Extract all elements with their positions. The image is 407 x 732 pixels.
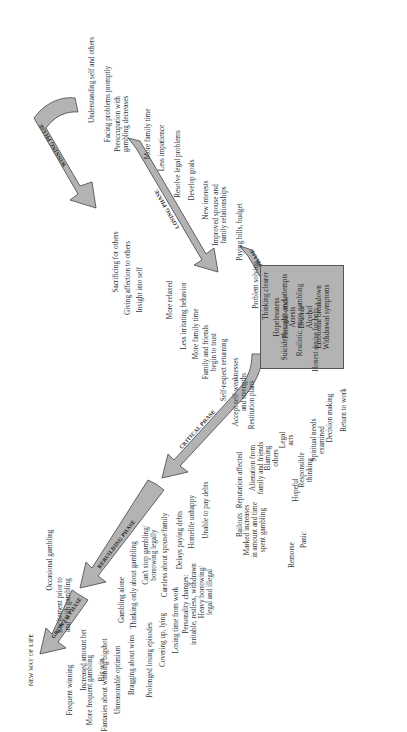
winning-phase-below-label: Unreasonable optimism bbox=[114, 646, 122, 714]
desperation-phase-above-label: Alienation fromfamily and friends bbox=[249, 442, 265, 495]
losing-phase-below-label: Prolonged losing episodes bbox=[146, 622, 154, 697]
rebuilding-phase-right-label: Improved spouse andfamily relationships bbox=[212, 184, 228, 245]
growth-phase-right-label: Facing problems promptly bbox=[104, 66, 112, 142]
losing-phase-below-label: Covering up, lying bbox=[159, 613, 167, 667]
critical-phase-right-label: Honest desire for help bbox=[312, 308, 320, 372]
growth-phase-right-label: Understanding self and others bbox=[88, 37, 96, 123]
losing-phase-above-label: Unable to pay debts bbox=[202, 481, 210, 538]
growth-phase-left-label: Giving affection to others bbox=[124, 241, 132, 315]
rebuilding-phase-left-label: Self-respect returning bbox=[220, 339, 228, 401]
winning-phase-below-label: Frequent winning bbox=[66, 665, 74, 716]
winning-phase-arrow-body bbox=[34, 98, 96, 208]
rebuilding-phase-left-label: Family and friendsbegin to trust bbox=[202, 325, 218, 379]
rebuilding-phase-right-label: More family time bbox=[144, 109, 152, 160]
losing-phase-above-label: Thinking only about gambling bbox=[130, 541, 138, 629]
growth-phase-left-label: Sacrificing for others bbox=[112, 231, 120, 292]
rebuilding-phase-right-label: Develop goals bbox=[188, 159, 196, 200]
losing-phase-above-label: Careless about spouse/family bbox=[161, 513, 169, 597]
crisis-item: Hopelessness bbox=[273, 298, 281, 337]
losing-phase-above-label: Delays paying debts bbox=[176, 511, 184, 569]
critical-phase-right-label: Problem solving bbox=[252, 261, 260, 308]
losing-phase-below-label: Heavy borrowing/legal and illegal bbox=[198, 566, 214, 619]
desperation-phase-above-label: Legalacts bbox=[279, 432, 295, 448]
rebuilding-phase-left-label: Less irritating behavior bbox=[180, 282, 188, 349]
losing-phase-above-label: Homelife unhappy bbox=[188, 495, 196, 549]
critical-phase-right-label: Realistic, stops gambling bbox=[296, 284, 304, 356]
rebuilding-phase-right-label: Less impatience bbox=[158, 125, 166, 172]
winning-phase-below-label: Bragging about wins bbox=[128, 635, 136, 695]
winning-phase-below-label: More frequent gambling bbox=[86, 655, 94, 725]
desperation-phase-below-label: Panic bbox=[300, 532, 308, 548]
critical-phase-right-label: Personal stock bbox=[282, 297, 290, 339]
winning-phase-above-label: Occasional gambling bbox=[46, 530, 54, 591]
growth-phase-left-label: Insight into self bbox=[136, 267, 144, 312]
winning-phase-above-label: Excitement prior toand with gambling bbox=[56, 577, 72, 633]
rebuilding-phase-left-label: Accept self-weaknessesand strengths bbox=[232, 358, 248, 426]
rebuilding-phase-right-label: New interests bbox=[202, 180, 210, 219]
critical-phase-left-label: Return to work bbox=[340, 388, 348, 432]
losing-phase-above-label: Gambling alone bbox=[118, 577, 126, 623]
rebuilding-phase-left-label: Restitution plans bbox=[248, 381, 256, 430]
rebuilding-phase-left-label: More relaxed bbox=[166, 281, 174, 320]
desperation-phase-below-label: Remorse bbox=[288, 542, 296, 568]
losing-phase-above-label: Can't stop gambling/borrowing legally bbox=[142, 525, 158, 585]
new-way-of-life-label: NEW WAY OF LIFE bbox=[28, 634, 34, 686]
rebuilding-phase-right-label: Resolve legal problems bbox=[174, 130, 182, 197]
rebuilding-phase-right-label: Paying bills, budget bbox=[236, 203, 244, 260]
desperation-phase-below-label: Marked increasesin amount and timespent … bbox=[243, 502, 268, 558]
rebuilding-phase-left-label: More family time bbox=[192, 309, 200, 360]
growth-phase-right-label: Preoccupation withgambling decreases bbox=[114, 96, 130, 152]
critical-phase-left-label: Decision making bbox=[326, 394, 334, 443]
losing-phase-below-label: Personality changes:irritable, restless,… bbox=[182, 563, 198, 645]
winning-phase-below-label: Fantasies about winning/bigshot bbox=[101, 638, 109, 731]
crisis-item: Withdrawal symptoms bbox=[323, 285, 331, 350]
desperation-phase-above-label: Blamingothers bbox=[264, 446, 280, 471]
critical-phase-left-label: Spiritual needsexamined bbox=[310, 419, 326, 462]
critical-phase-right-label: Thinking clearer bbox=[262, 272, 270, 320]
desperation-phase-above-label: Reputation affected bbox=[236, 452, 244, 508]
losing-phase-below-label: Losing time from work bbox=[172, 587, 180, 654]
